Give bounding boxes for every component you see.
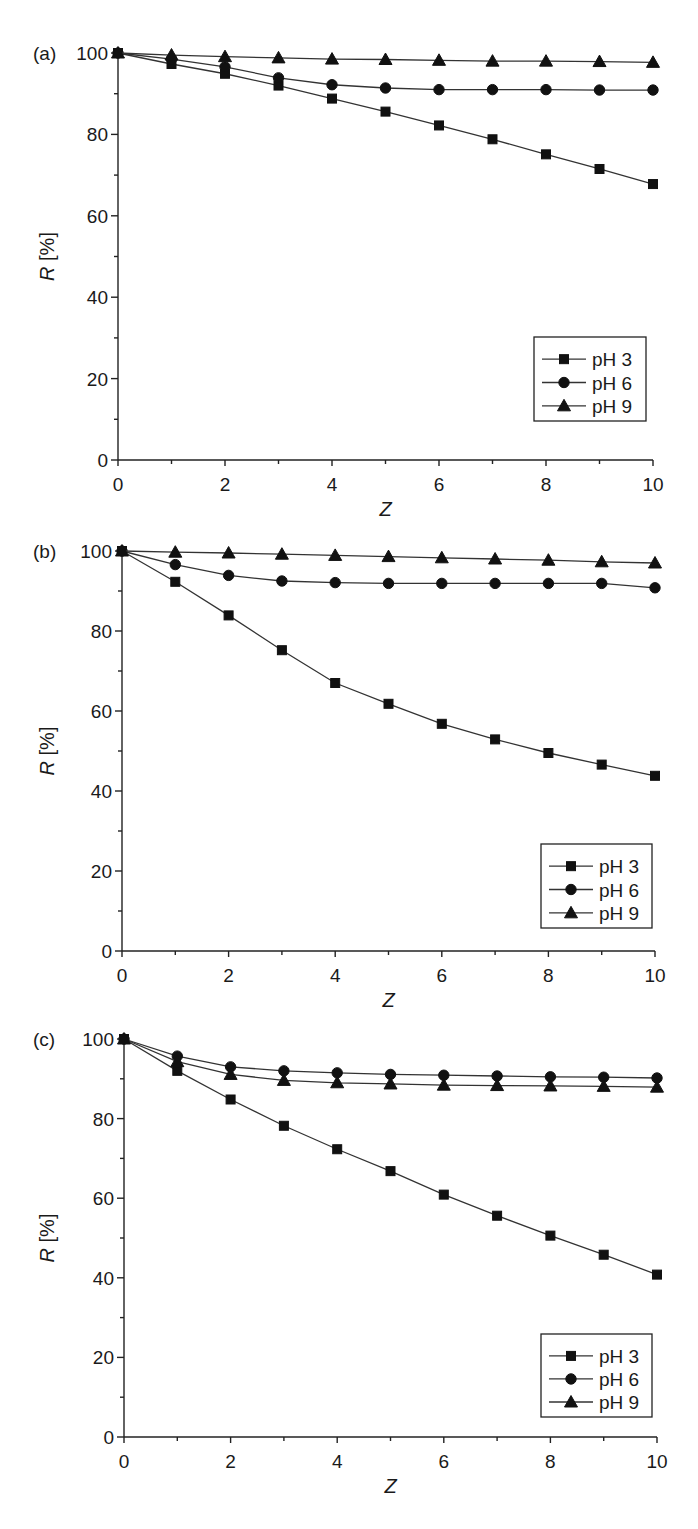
x-tick-label: 0 xyxy=(113,474,124,495)
x-tick-label: 8 xyxy=(545,1451,556,1472)
square-data-point xyxy=(493,1211,502,1220)
x-axis-title: Z xyxy=(381,989,395,1011)
triangle-data-point xyxy=(222,547,235,559)
circle-data-point xyxy=(648,85,658,95)
triangle-data-point xyxy=(647,56,660,68)
triangle-data-point xyxy=(540,55,553,67)
y-tick-label: 40 xyxy=(91,781,112,802)
legend-label: pH 9 xyxy=(599,1392,639,1413)
x-tick-label: 2 xyxy=(223,965,234,986)
circle-data-point xyxy=(594,85,604,95)
circle-legend-icon xyxy=(566,1374,576,1384)
square-data-point xyxy=(386,1167,395,1176)
square-data-point xyxy=(649,180,658,189)
legend: pH 3pH 6pH 9 xyxy=(541,1334,652,1417)
series-ph-9 xyxy=(116,545,662,569)
y-tick-label: 0 xyxy=(97,450,108,471)
circle-data-point xyxy=(434,84,444,94)
panel-label: (b) xyxy=(33,541,56,562)
square-data-point xyxy=(491,735,500,744)
triangle-data-point xyxy=(486,55,499,67)
y-tick-label: 80 xyxy=(93,1109,114,1130)
circle-data-point xyxy=(437,578,447,588)
square-data-point xyxy=(435,121,444,130)
square-data-point xyxy=(384,699,393,708)
x-tick-label: 10 xyxy=(646,1451,667,1472)
square-legend-icon xyxy=(567,1351,576,1360)
x-tick-label: 4 xyxy=(332,1451,343,1472)
square-legend-icon xyxy=(567,862,576,871)
y-tick-label: 80 xyxy=(91,621,112,642)
legend-label: pH 6 xyxy=(599,880,639,901)
square-data-point xyxy=(544,749,553,758)
y-axis-title: R [%] xyxy=(36,727,58,776)
legend-label: pH 3 xyxy=(599,1346,639,1367)
series-ph-3 xyxy=(114,49,658,189)
panel-label: (a) xyxy=(33,43,56,64)
x-tick-label: 10 xyxy=(644,965,665,986)
circle-data-point xyxy=(330,577,340,587)
y-tick-label: 100 xyxy=(80,541,112,562)
y-tick-label: 60 xyxy=(93,1188,114,1209)
x-tick-label: 10 xyxy=(642,474,663,495)
chart-panel-c: 0204060801000246810ZR [%](c)pH 3pH 6pH 9 xyxy=(33,1029,668,1497)
circle-data-point xyxy=(277,576,287,586)
square-data-point xyxy=(171,577,180,586)
legend: pH 3pH 6pH 9 xyxy=(534,337,646,421)
circle-data-point xyxy=(597,578,607,588)
circle-data-point xyxy=(487,84,497,94)
square-data-point xyxy=(542,150,551,159)
square-data-point xyxy=(439,1190,448,1199)
x-axis-title: Z xyxy=(383,1475,397,1497)
y-axis-title: R [%] xyxy=(36,1214,58,1263)
y-axis-title: R [%] xyxy=(36,232,58,281)
y-tick-label: 60 xyxy=(91,701,112,722)
y-tick-label: 40 xyxy=(93,1268,114,1289)
x-tick-label: 4 xyxy=(327,474,338,495)
square-data-point xyxy=(651,771,660,780)
x-tick-label: 8 xyxy=(541,474,552,495)
y-tick-label: 60 xyxy=(87,206,108,227)
circle-data-point xyxy=(223,570,233,580)
square-data-point xyxy=(597,760,606,769)
x-tick-label: 6 xyxy=(437,965,448,986)
legend-label: pH 9 xyxy=(592,396,632,417)
circle-data-point xyxy=(543,578,553,588)
y-tick-label: 20 xyxy=(93,1347,114,1368)
circle-legend-icon xyxy=(559,377,569,387)
x-tick-label: 0 xyxy=(117,965,128,986)
circle-legend-icon xyxy=(566,884,576,894)
square-data-point xyxy=(488,135,497,144)
series-line xyxy=(118,53,653,184)
triangle-data-point xyxy=(379,53,392,65)
series-ph-6 xyxy=(119,1034,662,1083)
y-tick-label: 100 xyxy=(76,43,108,64)
y-tick-label: 40 xyxy=(87,287,108,308)
triangle-data-point xyxy=(597,1080,610,1092)
square-data-point xyxy=(328,94,337,103)
y-tick-label: 20 xyxy=(87,369,108,390)
figure: 0204060801000246810ZR [%](a)pH 3pH 6pH 9… xyxy=(0,0,698,1529)
legend-label: pH 6 xyxy=(592,373,632,394)
circle-data-point xyxy=(170,559,180,569)
triangle-data-point xyxy=(544,1079,557,1091)
square-data-point xyxy=(595,164,604,173)
square-data-point xyxy=(277,646,286,655)
square-data-point xyxy=(331,679,340,688)
triangle-data-point xyxy=(593,55,606,66)
y-tick-label: 80 xyxy=(87,124,108,145)
legend-label: pH 3 xyxy=(592,349,632,370)
y-tick-label: 0 xyxy=(101,941,112,962)
legend-label: pH 9 xyxy=(599,903,639,924)
circle-data-point xyxy=(273,73,283,83)
x-tick-label: 8 xyxy=(543,965,554,986)
x-tick-label: 4 xyxy=(330,965,341,986)
circle-data-point xyxy=(327,80,337,90)
y-tick-label: 0 xyxy=(103,1427,114,1448)
circle-data-point xyxy=(380,83,390,93)
square-data-point xyxy=(333,1145,342,1154)
circle-data-point xyxy=(490,578,500,588)
x-tick-label: 0 xyxy=(119,1451,130,1472)
square-data-point xyxy=(599,1250,608,1259)
circle-data-point xyxy=(650,583,660,593)
